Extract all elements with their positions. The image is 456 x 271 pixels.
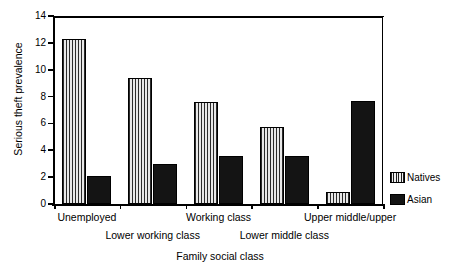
- x-axis-tick: [186, 204, 188, 209]
- x-axis-label-3: Lower middle class: [224, 230, 344, 241]
- x-axis-tick: [251, 204, 253, 209]
- bar-asian-4: [351, 101, 375, 204]
- bar-natives-2: [194, 102, 218, 204]
- striped-swatch: [390, 172, 405, 183]
- bar-asian-0: [87, 176, 111, 204]
- bar-natives-1: [128, 78, 152, 204]
- x-axis-label-2: Working class: [159, 212, 279, 223]
- bar-asian-1: [153, 164, 177, 204]
- bar-natives-0: [62, 39, 86, 204]
- x-axis-label-1: Lower working class: [93, 230, 213, 241]
- bar-series-container: [54, 16, 383, 204]
- x-axis-tick: [54, 204, 56, 209]
- chart-legend: NativesAsian: [390, 172, 456, 216]
- solid-black-swatch: [390, 194, 405, 205]
- bar-asian-3: [285, 156, 309, 204]
- x-axis-label-0: Unemployed: [27, 212, 147, 223]
- x-axis-title: Family social class: [110, 250, 330, 262]
- x-axis-tick: [120, 204, 122, 209]
- y-axis-tick-label: 0: [20, 199, 46, 209]
- chart-figure: 02468101214 Serious theft prevalence Une…: [0, 0, 456, 271]
- x-axis-tick: [383, 204, 385, 209]
- x-axis-tick: [317, 204, 319, 209]
- x-axis-line: [52, 204, 384, 206]
- bar-asian-2: [219, 156, 243, 204]
- bar-natives-3: [260, 127, 284, 204]
- y-axis-title: Serious theft prevalence: [12, 4, 24, 194]
- legend-label: Natives: [407, 173, 440, 183]
- legend-label: Asian: [407, 195, 432, 205]
- bar-natives-4: [326, 192, 350, 204]
- legend-item-asian: Asian: [390, 194, 456, 205]
- legend-item-natives: Natives: [390, 172, 456, 183]
